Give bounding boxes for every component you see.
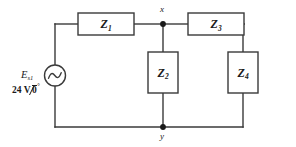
component-label-z4: Z4 [237, 67, 248, 79]
component-label-z3: Z3 [210, 18, 221, 30]
source-value-label: 24 V0° [12, 84, 40, 96]
junction-dot-node-x [160, 21, 166, 27]
source-name-label: Es1 [21, 70, 33, 81]
circuit-diagram-canvas: Z1 Z2 Z3 Z4 x y Es1 24 V0° [0, 0, 296, 147]
node-label-x: x [160, 5, 164, 14]
junction-dot-node-y [160, 124, 166, 130]
schematic-wires [0, 0, 296, 147]
component-label-z2: Z2 [157, 67, 168, 79]
node-label-y: y [160, 132, 164, 141]
component-label-z1: Z1 [100, 18, 111, 30]
